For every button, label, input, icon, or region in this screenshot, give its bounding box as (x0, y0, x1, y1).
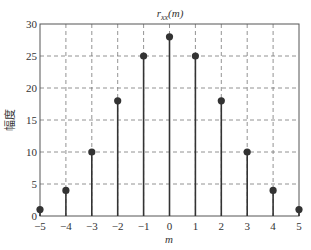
x-tick: 5 (296, 220, 302, 232)
stem-chart: −5−4−3−2−1012345 051015202530 rxx(m) m 幅… (0, 0, 311, 250)
x-tick: 1 (193, 220, 199, 232)
stem-marker (166, 33, 173, 40)
x-tick: 2 (219, 220, 225, 232)
stem-marker (218, 97, 225, 104)
y-tick-labels: 051015202530 (26, 18, 38, 222)
x-tick: −4 (60, 220, 72, 232)
stem-marker (295, 206, 302, 213)
y-tick: 5 (32, 178, 38, 190)
x-tick-labels: −5−4−3−2−1012345 (34, 220, 302, 232)
x-axis-label: m (165, 233, 173, 245)
stem-marker (140, 52, 147, 59)
stem-marker (62, 187, 69, 194)
x-tick: −2 (112, 220, 124, 232)
x-tick: −1 (138, 220, 150, 232)
x-tick: −3 (86, 220, 98, 232)
stem-marker (270, 187, 277, 194)
stem-marker (114, 97, 121, 104)
stem-marker (192, 52, 199, 59)
stem-marker (36, 206, 43, 213)
stem-marker (88, 148, 95, 155)
y-tick: 0 (32, 210, 38, 222)
y-tick: 15 (26, 114, 38, 126)
y-tick: 30 (26, 18, 38, 30)
x-tick: 4 (270, 220, 276, 232)
x-tick: 0 (167, 220, 173, 232)
y-axis-label: 幅度 (3, 109, 16, 131)
stems (36, 33, 302, 216)
y-tick: 10 (26, 146, 38, 158)
x-tick: 3 (244, 220, 250, 232)
y-tick: 25 (26, 50, 38, 62)
stem-marker (244, 148, 251, 155)
y-tick: 20 (26, 82, 38, 94)
chart-title: rxx(m) (157, 7, 184, 22)
